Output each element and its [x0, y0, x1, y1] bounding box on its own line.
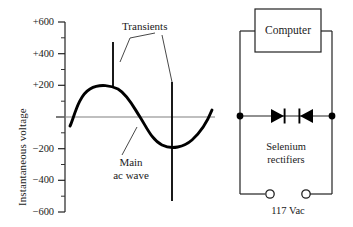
figure-root: Instantaneous voltage +600 +400 +200 −20…	[0, 0, 353, 227]
waveform-plot	[56, 22, 215, 212]
transients-leader-1	[120, 38, 130, 62]
junction-dot-right	[329, 113, 336, 120]
junction-dot-left	[237, 113, 244, 120]
diode-left	[271, 109, 285, 124]
y-tick-label-neg200: −200	[20, 143, 54, 155]
terminal-right	[302, 190, 310, 198]
transients-label: Transients	[122, 20, 167, 32]
main-wave-label-line1: Main	[104, 156, 158, 168]
supply-label: 117 Vac	[253, 205, 323, 217]
y-tick-label-neg600: −600	[20, 206, 54, 218]
y-tick-label-600: +600	[20, 16, 54, 28]
y-tick-label-200: +200	[20, 79, 54, 91]
diode-right	[299, 109, 313, 124]
y-tick-label-400: +400	[20, 48, 54, 60]
computer-box-label: Computer	[255, 24, 321, 37]
main-wave-leader	[122, 127, 137, 155]
y-tick-label-neg400: −400	[20, 174, 54, 186]
rectifier-label-line2: rectifiers	[251, 154, 321, 166]
transients-leader-1-tail	[130, 33, 155, 38]
y-axis-title: Instantaneous voltage	[16, 108, 28, 206]
circuit-diagram	[237, 9, 336, 198]
rectifier-label-line1: Selenium	[251, 141, 321, 153]
terminal-left	[266, 190, 274, 198]
main-wave-label-line2: ac wave	[96, 169, 166, 181]
transients-leader-2	[162, 35, 172, 82]
